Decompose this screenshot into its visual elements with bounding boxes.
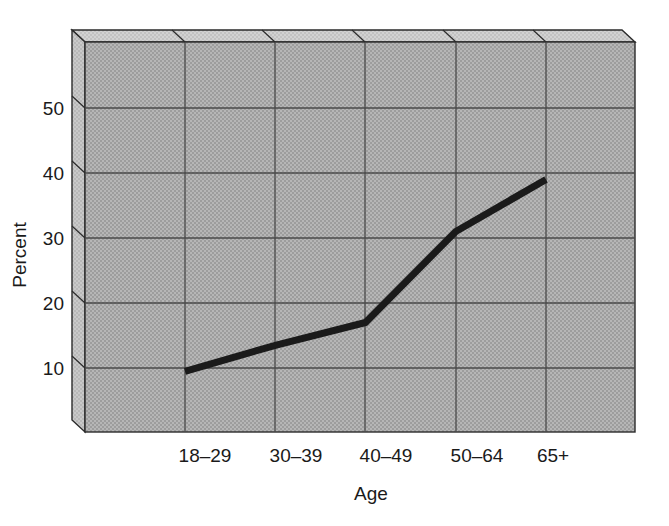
plot-left-bevel [72,30,85,432]
line-chart-figure: 50 40 30 20 10 Percent 18–29 30–39 40–49… [0,0,669,526]
y-tick-label-50: 50 [43,98,64,119]
y-tick-label-20: 20 [43,293,64,314]
x-axis-tick-labels: 18–29 30–39 40–49 50–64 65+ [179,445,570,466]
plot-area-background [85,42,635,432]
y-tick-label-30: 30 [43,228,64,249]
x-tick-label-50-64: 50–64 [451,445,504,466]
y-tick-label-10: 10 [43,358,64,379]
y-axis-tick-labels: 50 40 30 20 10 [43,98,64,379]
y-axis-title: Percent [9,222,30,288]
x-tick-label-30-39: 30–39 [270,445,323,466]
y-tick-label-40: 40 [43,163,64,184]
x-axis-title: Age [354,483,388,504]
x-tick-label-65plus: 65+ [537,445,569,466]
chart-canvas: 50 40 30 20 10 Percent 18–29 30–39 40–49… [0,0,669,526]
x-tick-label-40-49: 40–49 [360,445,413,466]
x-tick-label-18-29: 18–29 [179,445,232,466]
